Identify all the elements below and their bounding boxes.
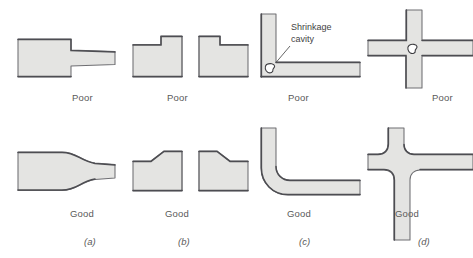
panel-b-poor-shape bbox=[133, 36, 248, 77]
panel-letter-b: (b) bbox=[178, 236, 190, 247]
shrinkage-cavity-void bbox=[265, 64, 274, 73]
panel-c-good-label: Good bbox=[287, 208, 311, 219]
panel-c-poor-label: Poor bbox=[288, 92, 309, 103]
figure-drawing: .shape { fill: #e4e4e2; stroke: #6e6e72;… bbox=[0, 0, 473, 258]
panel-letter-c: (c) bbox=[299, 236, 310, 247]
panel-a-good-label: Good bbox=[70, 208, 94, 219]
panel-a-poor-shape bbox=[18, 39, 115, 77]
shrinkage-cavity-annotation-line1: Shrinkage bbox=[291, 22, 332, 34]
shrinkage-cavity-annotation-line2: cavity bbox=[291, 34, 332, 46]
shrinkage-cavity-void-cross bbox=[408, 44, 417, 53]
shrinkage-cavity-annotation: Shrinkage cavity bbox=[291, 22, 332, 45]
panel-a-good-shape bbox=[18, 152, 115, 191]
panel-c-good-shape bbox=[261, 128, 360, 195]
panel-a-poor-label: Poor bbox=[72, 92, 93, 103]
panel-letter-a: (a) bbox=[84, 236, 96, 247]
panel-b-good-label: Good bbox=[165, 208, 189, 219]
panel-d-poor-shape bbox=[368, 10, 473, 88]
panel-b-poor-label: Poor bbox=[167, 92, 188, 103]
shrinkage-cavity-leader bbox=[276, 46, 290, 63]
casting-design-figure: .shape { fill: #e4e4e2; stroke: #6e6e72;… bbox=[0, 0, 473, 258]
panel-d-poor-label: Poor bbox=[432, 92, 453, 103]
panel-b-good-shape bbox=[133, 151, 248, 191]
panel-letter-d: (d) bbox=[418, 236, 430, 247]
panel-d-good-label: Good bbox=[395, 208, 419, 219]
panel-d-good-shape bbox=[368, 128, 473, 240]
